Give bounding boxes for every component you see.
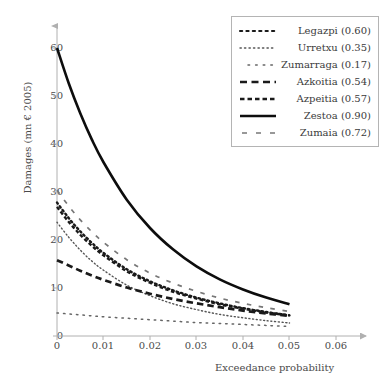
legend-item-zumarraga: Zumarraga (0.17) [238,56,372,73]
curve-azkoitia [57,260,290,316]
legend-label-azpeitia: Azpeitia (0.57) [278,93,372,104]
curve-urretxu [57,222,290,323]
y-tick-marks [53,48,57,336]
legend-key-zumaia [238,126,278,140]
x-tick-marks [57,336,336,340]
legend-label-azkoitia: Azkoitia (0.54) [278,76,372,87]
legend-label-zumaia: Zumaia (0.72) [278,127,372,138]
legend-item-zumaia: Zumaia (0.72) [238,124,372,141]
legend-item-azkoitia: Azkoitia (0.54) [238,73,372,90]
legend-item-zestoa: Zestoa (0.90) [238,107,372,124]
curve-zumarraga [57,313,290,326]
legend-key-azkoitia [238,75,278,89]
legend-item-azpeitia: Azpeitia (0.57) [238,90,372,107]
legend-label-zestoa: Zestoa (0.90) [278,110,372,121]
legend-item-legazpi: Legazpi (0.60) [238,22,372,39]
legend-label-zumarraga: Zumarraga (0.17) [278,59,372,70]
legend-key-zestoa [238,109,278,123]
curve-legazpi [57,203,290,316]
legend-key-azpeitia [238,92,278,106]
legend-key-urretxu [238,41,278,55]
legend-label-urretxu: Urretxu (0.35) [278,42,372,53]
legend-item-urretxu: Urretxu (0.35) [238,39,372,56]
chart-figure: Damages (mn € 2005) 60 50 40 30 20 10 0 … [0,0,385,388]
legend-key-legazpi [238,24,278,38]
legend-label-legazpi: Legazpi (0.60) [278,25,372,36]
legend: Legazpi (0.60) Urretxu (0.35) Zumarraga … [231,16,379,147]
legend-key-zumarraga [238,58,278,72]
